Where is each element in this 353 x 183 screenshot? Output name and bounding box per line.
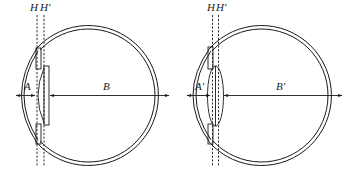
left-lens	[38, 66, 49, 125]
left-anterior-distance-label: A	[23, 80, 31, 92]
left-plane-H-label: H	[29, 1, 39, 13]
right-lens	[208, 66, 224, 126]
right-eye: H H' A' B'	[187, 1, 342, 167]
left-posterior-distance-label: B	[103, 80, 110, 92]
left-plane-H-prime-label: H'	[39, 1, 51, 13]
right-plane-H-label: H	[206, 1, 216, 13]
left-eye: H H' A B	[16, 1, 169, 167]
right-plane-H-prime-label: H'	[215, 1, 227, 13]
eye-comparison-diagram: H H' A B H H'	[0, 0, 353, 183]
right-anterior-distance-label: A'	[194, 80, 205, 92]
right-posterior-distance-label: B'	[276, 80, 286, 92]
